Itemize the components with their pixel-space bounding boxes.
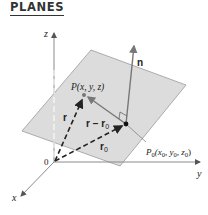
point-p	[82, 93, 86, 97]
point-p0-label: P0(x0, y0, z0)	[145, 147, 191, 158]
point-p0	[124, 122, 129, 127]
vector-r-label: r	[63, 112, 67, 123]
origin-label: 0	[44, 157, 49, 167]
plane-diagram: z y x 0 P(x, y, z) P0(x0, y0, z0) n r r …	[0, 0, 208, 215]
x-axis	[21, 162, 54, 196]
y-axis-label: y	[196, 168, 202, 179]
z-axis-label: z	[43, 28, 48, 39]
x-axis-label: x	[11, 192, 17, 203]
normal-label: n	[137, 57, 143, 68]
point-p-label: P(x, y, z)	[70, 82, 104, 93]
